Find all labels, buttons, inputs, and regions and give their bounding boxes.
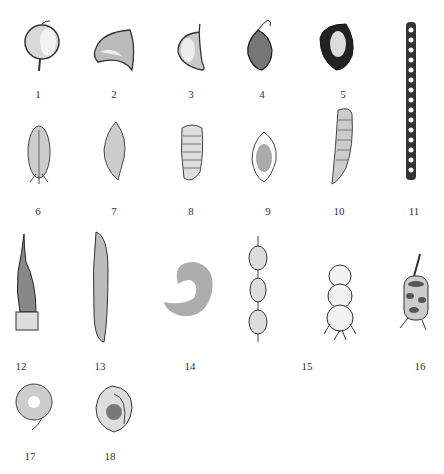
figure-label: 1	[23, 88, 53, 100]
figure-label: 4	[247, 88, 277, 100]
figure-label: 17	[15, 450, 45, 462]
pod-figure-6	[24, 124, 54, 186]
pod-figure-17	[14, 382, 56, 434]
figure-label: 6	[23, 205, 53, 217]
figure-label: 2	[99, 88, 129, 100]
pod-figure-8	[176, 122, 206, 184]
figure-label: 5	[328, 88, 358, 100]
pod-figure-14	[162, 258, 218, 322]
figure-label: 10	[324, 205, 354, 217]
figure-label: 12	[6, 360, 36, 372]
figure-label: 9	[253, 205, 283, 217]
pod-figure-unlabeled	[320, 264, 360, 344]
figure-label: 7	[99, 205, 129, 217]
figure-label: 3	[176, 88, 206, 100]
figure-label: 11	[399, 205, 429, 217]
pod-figure-5	[316, 20, 358, 76]
figure-label: 13	[85, 360, 115, 372]
pod-figure-11	[404, 20, 418, 182]
figure-label: 8	[176, 205, 206, 217]
pod-figure-7	[100, 118, 130, 184]
pod-figure-1	[22, 18, 62, 74]
figure-label: 18	[95, 450, 125, 462]
figure-label: 15	[292, 360, 322, 372]
pod-figure-18	[92, 384, 136, 436]
pod-figure-16	[396, 252, 436, 336]
pod-figure-15	[244, 234, 272, 344]
pod-figure-9	[248, 130, 280, 186]
pod-figure-3	[172, 22, 210, 74]
figure-label: 14	[175, 360, 205, 372]
pod-figure-4	[242, 16, 280, 76]
figure-label: 16	[405, 360, 435, 372]
pod-figure-2	[92, 26, 140, 76]
pod-figure-12	[10, 232, 40, 334]
pod-figure-10	[328, 106, 360, 186]
pod-figure-13	[88, 230, 112, 346]
